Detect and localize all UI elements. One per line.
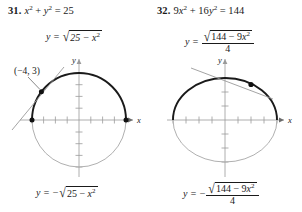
problem-31-bottom-function: y = − √ 25 − x2 (36, 186, 98, 199)
problem-31-number: 31. (8, 5, 21, 16)
problem-31-bottom-radical: √ 25 − x2 (59, 186, 97, 199)
problem-31-bottom-minus: − (53, 187, 59, 198)
problem-31-bottom-radicand: 25 − x2 (66, 186, 98, 199)
tangent-line-31 (12, 67, 64, 130)
radical-sign-icon: √ (63, 29, 70, 44)
problem-32-bottom-function: y = − √ 144 − 9x2 4 (183, 182, 259, 206)
radical-sign-icon: √ (208, 181, 215, 195)
problem-31-bottom-lhs: y = (36, 187, 50, 198)
problem-31-eq-plus: + (35, 5, 41, 16)
problem-31-top-radicand: 25 − x2 (69, 30, 102, 43)
textbook-figure-page: 31.x2+y2=25 y = √ 25 − x2 y = − √ 25 − x… (0, 0, 302, 212)
tangent-line-32 (191, 68, 273, 99)
y-axis-label-31: y (71, 55, 76, 65)
problem-32-top-lhs: y = (185, 36, 199, 47)
problem-31: 31.x2+y2=25 y = √ 25 − x2 y = − √ 25 − x… (0, 0, 151, 212)
problem-32-bottom-lhs: y = (183, 188, 197, 199)
problem-31-eq-equals: = (55, 5, 61, 16)
problem-32-eq-rhs: 144 (228, 5, 244, 16)
problem-32-top-function: y = √ 144 − 9x2 4 (185, 30, 254, 54)
point-marker-left-intercept (30, 118, 35, 123)
problem-32-eq-exp1: 2 (184, 4, 188, 12)
x-axis-label-32: x (287, 115, 292, 125)
problem-32-graph: x y (151, 55, 302, 180)
problem-31-eq-rhs: 25 (63, 5, 74, 16)
axes-32 (167, 59, 284, 177)
problem-32-bottom-minus: − (200, 188, 206, 199)
problem-32-eq-coef2: 16 (198, 5, 209, 16)
problem-32-eq-plus: + (190, 5, 196, 16)
problem-31-eq-exp2: 2 (49, 4, 53, 12)
problem-32-top-radicand: 144 − 9x2 (210, 30, 252, 42)
problem-32-eq-exp2: 2 (214, 4, 218, 12)
point-marker-right-intercept (124, 118, 129, 123)
point-leader-line-31 (28, 77, 40, 90)
problem-31-eq-exp1: 2 (29, 4, 33, 12)
problem-31-top-lhs: y = (46, 31, 60, 42)
problem-32-bottom-denominator: 4 (228, 195, 237, 206)
x-axis-label-31: x (136, 115, 141, 125)
point-marker-2-3sqrt3over2 (248, 82, 253, 87)
problem-32-bottom-numerator: √ 144 − 9x2 (206, 182, 258, 195)
problem-31-heading: 31.x2+y2=25 (8, 5, 74, 16)
problem-32-top-fraction: √ 144 − 9x2 4 (202, 30, 254, 54)
problem-32-top-numerator: √ 144 − 9x2 (202, 30, 254, 43)
problem-31-graph: x y (0, 55, 151, 180)
problem-32-eq-equals: = (220, 5, 226, 16)
radical-sign-icon: √ (59, 185, 66, 200)
problem-32-bottom-fraction: √ 144 − 9x2 4 (206, 182, 258, 206)
y-axis-label-32: y (217, 55, 222, 65)
radical-sign-icon: √ (204, 29, 211, 43)
problem-32: 32.9x2+16y2=144 y = √ 144 − 9x2 4 y = − (151, 0, 302, 212)
point-marker-minus4-3 (39, 89, 44, 94)
problem-32-number: 32. (157, 5, 170, 16)
axes-31 (20, 59, 133, 177)
problem-32-heading: 32.9x2+16y2=144 (157, 5, 244, 16)
problem-31-top-function: y = √ 25 − x2 (46, 30, 102, 43)
problem-32-bottom-radicand: 144 − 9x2 (215, 182, 257, 194)
problem-32-top-denominator: 4 (223, 43, 232, 54)
problem-31-top-radical: √ 25 − x2 (63, 30, 102, 43)
